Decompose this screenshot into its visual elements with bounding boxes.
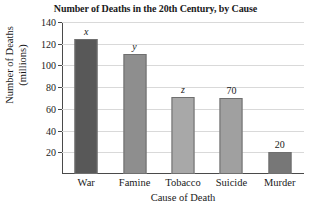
y-axis-tick-label: 60 [32,103,56,114]
chart-title: Number of Deaths in the 20th Century, by… [0,3,311,14]
y-axis-tick-label: 120 [32,38,56,49]
bar-group: yFamine [110,22,158,174]
x-axis-category-label: Famine [119,177,151,188]
bar-value-label: 70 [226,85,236,96]
y-axis-tick-label: 140 [32,17,56,28]
y-axis-tick-label: 100 [32,60,56,71]
y-axis-label: Number of Deaths (millions) [4,15,30,115]
y-axis-label-line-2: (millions) [17,15,30,115]
bar-group: zTobacco [159,22,207,174]
y-axis-tick-label: 40 [32,125,56,136]
bar [75,39,98,174]
x-axis-category-label: Suicide [216,177,248,188]
bar-value-label: 20 [275,139,285,150]
y-axis-tick-label: 20 [32,147,56,158]
plot-area: 20406080100120140 xWaryFaminezTobacco70S… [62,22,304,174]
x-axis-label: Cause of Death [62,192,304,203]
y-axis-tick-label: 80 [32,82,56,93]
bar [171,97,194,174]
x-axis-category-label: War [78,177,95,188]
bar [123,54,146,175]
bar-group: 70Suicide [207,22,255,174]
x-axis-category-label: Murder [264,177,296,188]
bar-group: xWar [62,22,110,174]
bar [268,152,291,174]
bar-value-label: y [132,41,136,52]
bar-value-label: x [84,26,88,37]
y-axis-label-line-1: Number of Deaths [4,15,17,115]
x-axis-category-label: Tobacco [165,177,200,188]
bar [220,98,243,174]
bar-value-label: z [181,84,185,95]
bar-group: 20Murder [256,22,304,174]
bar-chart-figure: Number of Deaths in the 20th Century, by… [0,0,311,217]
